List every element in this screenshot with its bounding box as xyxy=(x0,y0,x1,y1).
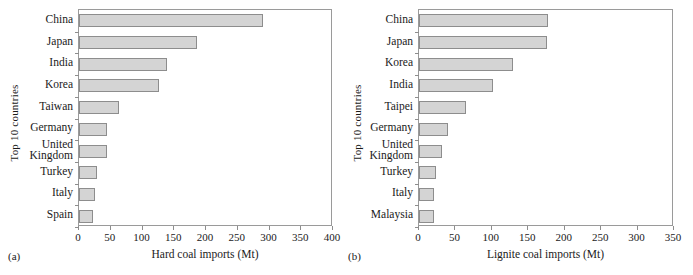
x-tick xyxy=(142,226,143,230)
x-tick xyxy=(491,226,492,230)
figure-two-panel-bar-charts: Top 10 countries ChinaJapanIndiaKoreaTai… xyxy=(0,0,693,275)
bar-korea xyxy=(419,58,513,71)
x-tick xyxy=(300,226,301,230)
y-tick-label-india: India xyxy=(389,79,413,90)
bar-taipei xyxy=(419,101,466,114)
x-tick-label: 0 xyxy=(398,231,438,243)
panel-b: Top 10 countries ChinaJapanKoreaIndiaTai… xyxy=(343,0,693,275)
x-tick xyxy=(454,226,455,230)
y-tick xyxy=(415,75,419,76)
bar-india xyxy=(419,79,493,92)
bar-india xyxy=(79,58,167,71)
y-tick xyxy=(75,97,79,98)
x-tick xyxy=(237,226,238,230)
y-tick xyxy=(415,140,419,141)
bar-united-kingdom xyxy=(419,145,442,158)
panel-a: Top 10 countries ChinaJapanIndiaKoreaTai… xyxy=(0,0,346,275)
x-tick xyxy=(332,226,333,230)
y-tick-label-taipei: Taipei xyxy=(384,101,413,112)
bar-korea xyxy=(79,79,159,92)
y-axis-tick-labels-b: ChinaJapanKoreaIndiaTaipeiGermanyUnitedK… xyxy=(343,9,413,226)
y-tick xyxy=(75,119,79,120)
y-tick-label-turkey: Turkey xyxy=(40,166,73,177)
bar-japan xyxy=(419,36,547,49)
x-tick xyxy=(600,226,601,230)
y-tick xyxy=(75,32,79,33)
y-tick xyxy=(75,140,79,141)
bar-china xyxy=(79,14,263,27)
x-tick-label: 250 xyxy=(580,231,620,243)
y-tick-label-turkey: Turkey xyxy=(380,166,413,177)
y-tick-label-korea: Korea xyxy=(45,79,73,90)
x-tick-label: 150 xyxy=(507,231,547,243)
y-tick-label-italy: Italy xyxy=(52,187,73,198)
bar-spain xyxy=(79,210,93,223)
y-tick-label-spain: Spain xyxy=(47,209,73,220)
y-tick-label-united-kingdom: UnitedKingdom xyxy=(30,139,73,161)
y-tick xyxy=(415,162,419,163)
x-tick xyxy=(564,226,565,230)
y-tick-label-china: China xyxy=(46,14,73,25)
y-tick xyxy=(75,53,79,54)
y-axis-tick-labels-a: ChinaJapanIndiaKoreaTaiwanGermanyUnitedK… xyxy=(0,9,73,226)
y-tick-label-india: India xyxy=(49,57,73,68)
y-tick-label-germany: Germany xyxy=(370,122,413,133)
y-tick-label-korea: Korea xyxy=(385,57,413,68)
bar-taiwan xyxy=(79,101,119,114)
y-tick xyxy=(415,119,419,120)
y-tick xyxy=(75,205,79,206)
caption-a: (a) xyxy=(8,250,20,262)
x-axis-title-b: Lignite coal imports (Mt) xyxy=(418,248,673,260)
x-tick xyxy=(637,226,638,230)
bar-germany xyxy=(419,123,448,136)
caption-b: (b) xyxy=(348,250,361,262)
y-tick xyxy=(75,184,79,185)
y-tick xyxy=(75,75,79,76)
x-tick xyxy=(110,226,111,230)
bar-japan xyxy=(79,36,197,49)
y-tick xyxy=(415,32,419,33)
x-tick xyxy=(78,226,79,230)
plot-area-a xyxy=(78,9,332,226)
y-tick xyxy=(415,97,419,98)
y-tick-label-japan: Japan xyxy=(47,36,73,47)
x-tick xyxy=(527,226,528,230)
y-tick-label-united-kingdom: UnitedKingdom xyxy=(370,139,413,161)
x-tick xyxy=(673,226,674,230)
x-tick xyxy=(418,226,419,230)
y-tick xyxy=(415,184,419,185)
x-axis-title-a: Hard coal imports (Mt) xyxy=(78,248,332,260)
y-tick-label-taiwan: Taiwan xyxy=(39,101,73,112)
bar-turkey xyxy=(79,166,97,179)
x-tick-label: 50 xyxy=(434,231,474,243)
y-tick-label-line: Kingdom xyxy=(30,150,73,161)
y-tick-label-line: Kingdom xyxy=(370,150,413,161)
y-tick-label-japan: Japan xyxy=(387,36,413,47)
y-tick-label-malaysia: Malaysia xyxy=(371,209,413,220)
y-tick-label-germany: Germany xyxy=(30,122,73,133)
bar-malaysia xyxy=(419,210,434,223)
bar-italy xyxy=(419,188,434,201)
plot-area-b xyxy=(418,9,673,226)
x-tick-label: 300 xyxy=(617,231,657,243)
x-tick xyxy=(269,226,270,230)
bar-united-kingdom xyxy=(79,145,107,158)
bar-china xyxy=(419,14,548,27)
y-tick-label-china: China xyxy=(386,14,413,25)
bar-italy xyxy=(79,188,95,201)
x-tick-label: 100 xyxy=(471,231,511,243)
y-tick-label-italy: Italy xyxy=(392,187,413,198)
x-tick-label: 200 xyxy=(544,231,584,243)
x-tick xyxy=(205,226,206,230)
y-tick xyxy=(415,53,419,54)
y-tick xyxy=(415,205,419,206)
y-tick xyxy=(75,162,79,163)
x-tick-label: 350 xyxy=(653,231,693,243)
bar-germany xyxy=(79,123,107,136)
x-tick xyxy=(173,226,174,230)
bar-turkey xyxy=(419,166,436,179)
